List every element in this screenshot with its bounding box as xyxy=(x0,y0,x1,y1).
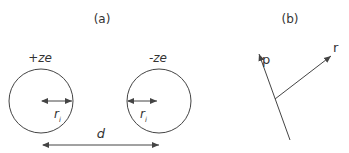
vector-r-label: r xyxy=(333,40,339,55)
panel-b: (b) p r xyxy=(259,12,339,140)
radius-label-right: ri xyxy=(140,107,147,124)
distance-label: d xyxy=(97,126,106,141)
panel-a: (a) +ze ri -ze ri d xyxy=(9,12,191,145)
panel-b-label: (b) xyxy=(282,12,299,26)
diagram-canvas: (a) +ze ri -ze ri d (b) p r xyxy=(0,0,349,153)
radius-label-left: ri xyxy=(54,107,61,124)
positive-charge-label: +ze xyxy=(28,51,52,65)
panel-a-label: (a) xyxy=(94,12,111,26)
vector-p-label: p xyxy=(262,52,270,67)
negative-ion: -ze ri xyxy=(127,51,191,133)
vector-r-arrow xyxy=(275,56,331,99)
positive-ion: +ze ri xyxy=(9,51,73,133)
negative-charge-label: -ze xyxy=(149,51,167,65)
